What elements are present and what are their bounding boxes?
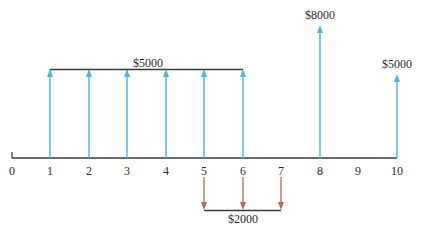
period-label-8: 8 xyxy=(317,165,323,177)
arrowhead-up-icon xyxy=(317,25,323,33)
period-label-1: 1 xyxy=(47,165,53,177)
period-label-2: 2 xyxy=(86,165,92,177)
arrowhead-up-icon xyxy=(394,74,400,82)
arrowhead-down-icon xyxy=(240,202,246,210)
period-label-7: 7 xyxy=(278,165,284,177)
inflow-arrows-group xyxy=(47,69,246,158)
inflow-arrow-8 xyxy=(317,25,323,158)
inflow-p8-amount-label: $8000 xyxy=(305,9,335,21)
arrowhead-down-icon xyxy=(201,202,207,210)
inflow-p10-amount-label: $5000 xyxy=(382,58,412,70)
inflow-group-amount-label: $5000 xyxy=(133,57,163,69)
period-label-5: 5 xyxy=(201,165,207,177)
period-label-4: 4 xyxy=(163,165,169,177)
cash-flow-diagram: 0 1 2 3 4 5 6 7 8 9 10 $5000 $8000 $5000… xyxy=(0,0,425,233)
period-label-9: 9 xyxy=(355,165,361,177)
outflow-group-amount-label: $2000 xyxy=(228,213,258,225)
period-label-3: 3 xyxy=(124,165,130,177)
inflow-arrow-10 xyxy=(394,74,400,158)
outflow-arrows-group xyxy=(201,177,284,210)
cash-flow-svg xyxy=(0,0,425,233)
period-label-0: 0 xyxy=(9,165,15,177)
arrowhead-down-icon xyxy=(278,202,284,210)
period-label-6: 6 xyxy=(240,165,246,177)
period-label-10: 10 xyxy=(391,165,403,177)
